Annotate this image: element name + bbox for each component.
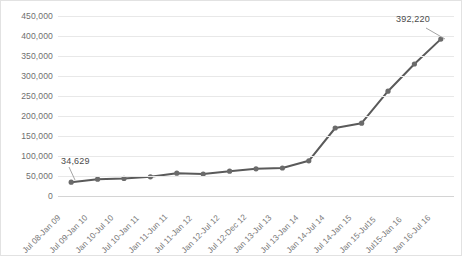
data-point [95,177,100,182]
gridline [58,56,454,57]
gridline [58,156,454,157]
gridline [58,36,454,37]
plot-area [58,16,454,196]
first-point-label: 34,629 [61,156,90,166]
x-axis: Jul 08-Jan 09Jul 09-Jan 10Jan 10-Jul 10J… [58,197,454,257]
gridline [58,176,454,177]
series-layer [58,16,454,196]
series-line [71,39,441,182]
data-point [69,180,74,185]
data-point [359,121,364,126]
y-axis-tick-label: 200,000 [1,111,53,121]
y-axis-tick-label: 50,000 [1,171,53,181]
gridline [58,16,454,17]
y-axis-tick-label: 100,000 [1,151,53,161]
series-markers [69,37,444,185]
data-point [333,125,338,130]
y-axis-tick-label: 400,000 [1,31,53,41]
data-point [253,166,258,171]
gridline [58,136,454,137]
data-point [438,37,443,42]
gridline [58,76,454,77]
y-axis-tick-label: 250,000 [1,91,53,101]
data-point [227,169,232,174]
chart-container: 450,000400,000350,000300,000250,000200,0… [0,0,462,256]
data-point [280,165,285,170]
y-axis-tick-label: 0 [1,191,53,201]
y-axis-tick-label: 150,000 [1,131,53,141]
y-axis-tick-label: 350,000 [1,51,53,61]
last-point-label: 392,220 [396,14,430,24]
gridline [58,96,454,97]
y-axis-tick-label: 450,000 [1,11,53,21]
y-axis: 450,000400,000350,000300,000250,000200,0… [1,16,53,196]
data-point [412,61,417,66]
y-axis-tick-label: 300,000 [1,71,53,81]
data-point [385,89,390,94]
data-point [306,158,311,163]
gridline [58,116,454,117]
